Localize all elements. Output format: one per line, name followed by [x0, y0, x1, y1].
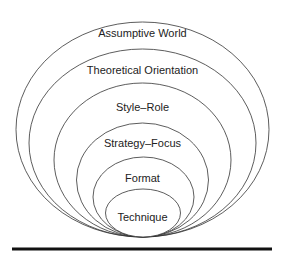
label-format: Format	[0, 172, 283, 185]
label-strategy-focus: Strategy–Focus	[0, 137, 283, 150]
label-technique: Technique	[0, 211, 283, 224]
label-theoretical-orientation: Theoretical Orientation	[0, 64, 283, 77]
baseline	[12, 248, 272, 251]
label-assumptive-world: Assumptive World	[0, 27, 283, 40]
label-style-role: Style–Role	[0, 101, 283, 114]
